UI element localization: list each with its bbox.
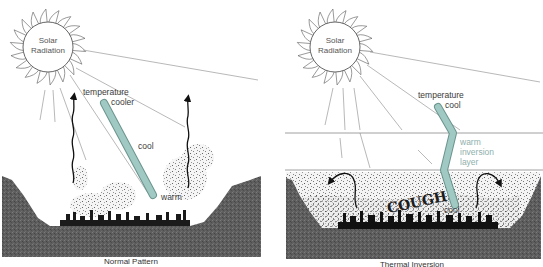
sun-ray <box>297 42 310 50</box>
label-warm-inversion-2: inversion <box>460 147 494 157</box>
caption-normal-pattern: Normal Pattern <box>104 257 158 266</box>
label-cool: cool <box>138 141 154 151</box>
sun-ray <box>336 71 343 85</box>
label-warm-inversion-3: layer <box>460 157 479 167</box>
sun-ray <box>37 71 47 84</box>
label-temperature: temperature <box>83 87 129 97</box>
sun-ray <box>336 11 346 24</box>
sun-ray <box>10 42 23 50</box>
sun-ray <box>324 71 334 84</box>
label-cool-bottom: cool <box>444 205 460 215</box>
label-cooler: cooler <box>111 97 134 107</box>
sun-label-line1: Solar <box>326 36 345 45</box>
diagram-canvas: Solar Radiation <box>0 0 543 267</box>
panel-normal-pattern: Solar Radiation <box>2 9 261 266</box>
sun-ray <box>327 9 334 23</box>
label-temperature: temperature <box>418 90 464 100</box>
caption-thermal-inversion: Thermal Inversion <box>380 260 444 267</box>
sun-ray <box>360 44 373 52</box>
sun-ray <box>49 11 59 24</box>
panel-thermal-inversion: Solar Radiation <box>285 9 543 267</box>
label-warm: warm <box>160 192 182 202</box>
label-warm-inversion-1: warm <box>459 137 481 147</box>
sun-ray <box>49 71 56 85</box>
sun-ray <box>40 9 47 23</box>
rising-air-arrow <box>72 96 74 183</box>
sun-label-line2: Radiation <box>31 46 65 55</box>
label-cool-top: cool <box>445 100 461 110</box>
sun-label-line1: Solar <box>39 36 58 45</box>
sun-label-line2: Radiation <box>318 46 352 55</box>
